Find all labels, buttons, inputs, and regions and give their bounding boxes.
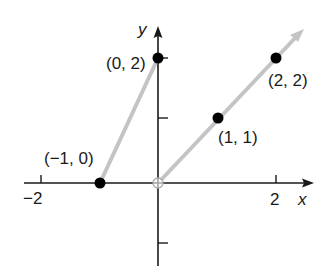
tick-label-neg2: −2 [23,189,42,208]
open-point-origin [153,178,163,188]
x-axis [24,175,314,188]
left-segment [100,58,158,183]
point-neg1-0 [95,178,106,189]
label-point-2-2: (2, 2) [268,71,308,90]
point-1-1 [213,113,224,124]
point-0-2 [153,53,164,64]
label-point-1-1: (1, 1) [218,128,258,147]
right-ray [161,29,304,180]
y-axis-label: y [137,20,148,39]
point-2-2 [271,53,282,64]
coordinate-plane: y x −2 2 (0, 2) (−1, 0) (1, 1) (2, 2) [0,0,336,280]
label-point-0-2: (0, 2) [106,54,146,73]
x-axis-label: x [297,190,307,209]
label-point-neg1-0: (−1, 0) [44,149,94,168]
tick-label-2: 2 [270,190,279,209]
